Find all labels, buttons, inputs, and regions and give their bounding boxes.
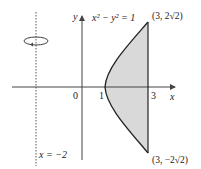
- rotation-arrow-icon: [24, 37, 48, 47]
- tick-1-label: 1: [99, 90, 104, 101]
- point-bottom-label: (3, −2√2): [152, 155, 188, 166]
- equation-label: x² − y² = 1: [91, 12, 135, 23]
- rotation-axis-label: x = −2: [38, 149, 67, 160]
- axis-y-label: y: [72, 11, 78, 22]
- axis-x-label: x: [169, 91, 175, 102]
- diagram: y x 0 1 3 x² − y² = 1 (3, 2√2) (3, −2√2)…: [0, 0, 201, 169]
- tick-3-label: 3: [151, 90, 156, 101]
- origin-label: 0: [73, 90, 78, 101]
- point-top-label: (3, 2√2): [152, 11, 183, 22]
